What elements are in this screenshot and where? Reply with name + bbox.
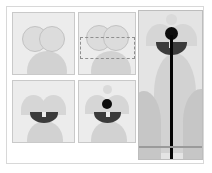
top-dot-icon — [166, 14, 177, 25]
panel-masked-shape-with-marker-dot[interactable] — [78, 80, 136, 143]
vertical-line[interactable] — [170, 35, 173, 159]
background-blob — [27, 121, 63, 143]
panel-two-overlapping-circles[interactable] — [12, 12, 75, 75]
top-dot-icon — [103, 85, 112, 94]
background-blob — [27, 51, 67, 75]
figure-root — [0, 0, 212, 173]
background-blob — [91, 121, 127, 143]
panel-merged-shape-with-mask[interactable] — [12, 80, 75, 143]
bounding-box[interactable] — [80, 37, 135, 59]
panel-final-composite[interactable] — [138, 10, 203, 160]
mask-notch — [42, 112, 46, 117]
marker-dot-icon[interactable] — [102, 99, 112, 109]
ground-line — [139, 146, 203, 148]
mask-notch — [106, 112, 110, 117]
circle-right-icon — [39, 26, 65, 52]
panel-circles-with-bounding-box[interactable] — [78, 12, 136, 75]
